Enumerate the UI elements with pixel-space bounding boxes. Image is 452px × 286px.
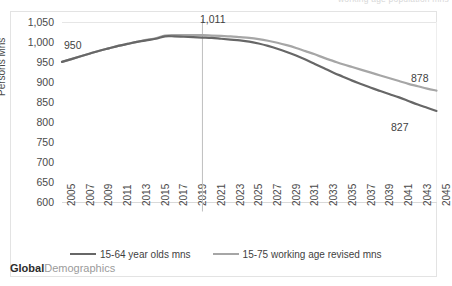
- data-label-marker: 1,011: [200, 13, 226, 25]
- legend-label-1: 15-75 working age revised mns: [243, 249, 382, 260]
- legend-swatch-1: [213, 253, 239, 256]
- legend-swatch-0: [70, 253, 96, 256]
- series-line-15-64: [62, 36, 437, 111]
- legend-label-0: 15-64 year olds mns: [100, 249, 191, 260]
- watermark-global-demographics: GlobalDemographics: [10, 262, 115, 274]
- data-label-start: 950: [64, 39, 82, 51]
- watermark-part-2: Demographics: [44, 262, 115, 274]
- legend-item-0[interactable]: 15-64 year olds mns: [70, 249, 191, 260]
- watermark-part-1: Global: [10, 262, 44, 274]
- legend-item-1[interactable]: 15-75 working age revised mns: [213, 249, 382, 260]
- data-label-end-upper: 878: [411, 72, 429, 84]
- data-label-end-lower: 827: [391, 121, 409, 133]
- chart-legend: 15-64 year olds mns15-75 working age rev…: [70, 246, 430, 262]
- series-line-15-75: [62, 35, 437, 90]
